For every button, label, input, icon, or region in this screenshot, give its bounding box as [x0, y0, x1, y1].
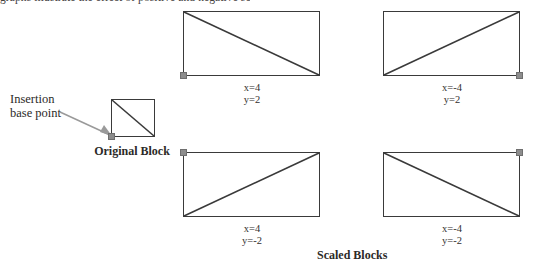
scaled-block-top-right-base-point [516, 72, 523, 79]
scaled-block-top-right [383, 11, 520, 76]
scaled-block-bottom-left-label: x=4 y=-2 [212, 223, 292, 246]
original-block-diagonal [111, 99, 155, 137]
scaled-block-top-right-x: x=-4 [412, 82, 492, 94]
scaled-block-top-left-y: y=2 [212, 94, 292, 106]
scaled-block-top-left-label: x=4 y=2 [212, 82, 292, 105]
insertion-base-point-callout: Insertion base point [10, 92, 61, 120]
clipped-top-text: graphs illustrate the effect of positive… [0, 0, 250, 5]
scaled-block-bottom-left [183, 152, 320, 217]
scaled-block-bottom-right-y: y=-2 [412, 235, 492, 247]
scaled-block-bottom-right-x: x=-4 [412, 223, 492, 235]
scaled-block-bottom-right-label: x=-4 y=-2 [412, 223, 492, 246]
scaled-block-bottom-left-diagonal [183, 152, 320, 217]
callout-line-1: Insertion [10, 92, 61, 106]
scaled-block-top-right-diagonal [383, 11, 520, 76]
scaled-block-bottom-left-base-point [180, 149, 187, 156]
scaled-block-bottom-left-y: y=-2 [212, 235, 292, 247]
callout-line-2: base point [10, 106, 61, 120]
diagram-canvas: graphs illustrate the effect of positive… [0, 0, 536, 280]
scaled-block-bottom-right [383, 152, 520, 217]
scaled-block-bottom-left-x: x=4 [212, 223, 292, 235]
scaled-blocks-caption: Scaled Blocks [317, 248, 387, 263]
scaled-block-bottom-right-diagonal [383, 152, 520, 217]
scaled-block-bottom-right-base-point [516, 149, 523, 156]
original-block [111, 99, 155, 137]
scaled-block-top-left-x: x=4 [212, 82, 292, 94]
scaled-block-top-left [183, 11, 320, 76]
scaled-block-top-right-y: y=2 [412, 94, 492, 106]
scaled-block-top-right-label: x=-4 y=2 [412, 82, 492, 105]
scaled-block-top-left-diagonal [183, 11, 320, 76]
scaled-block-top-left-base-point [180, 72, 187, 79]
insertion-base-point-marker [108, 133, 115, 140]
